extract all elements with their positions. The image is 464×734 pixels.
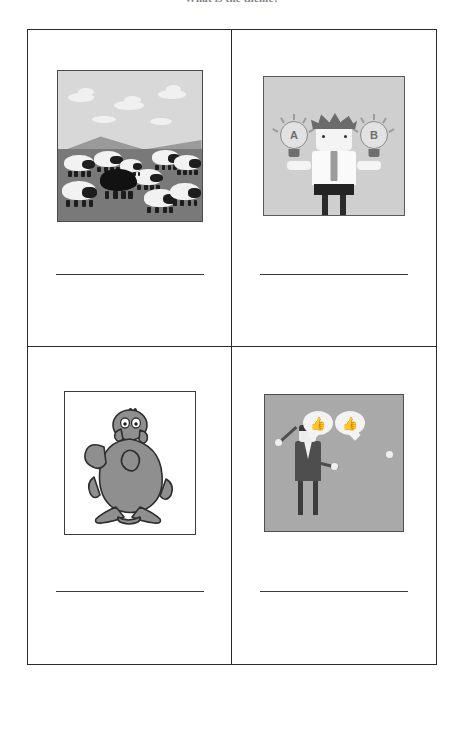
handshake-hands [331,463,338,470]
answer-slot[interactable] [232,579,436,664]
lightbulb-a-label: A [290,129,298,141]
table-cell-bottom-left [28,347,232,664]
necktie [331,151,338,181]
lightbulb-a-icon: A [280,121,308,149]
cloud-icon [124,96,141,104]
leg [298,481,303,515]
white-sheep [62,181,96,207]
answer-line[interactable] [56,274,204,275]
thumbs-up-icon: 👍 [342,417,358,430]
table-cell-top-right: A B [232,30,436,346]
answer-line[interactable] [260,274,408,275]
hand [386,451,393,458]
speech-bubble-right: 👍 [335,411,365,435]
page-title-container: What is the theme? [0,0,464,7]
answer-slot[interactable] [232,262,436,346]
page-title: What is the theme? [0,0,464,5]
black-sheep [100,169,136,199]
cloud-icon [166,85,181,93]
answer-line[interactable] [260,591,408,592]
left-arm [287,161,311,170]
answer-slot[interactable] [28,262,231,346]
worksheet-table: A B [27,29,437,665]
leg [322,195,328,216]
lightbulb-b-icon: B [360,121,388,149]
cloud-icon [150,118,172,125]
leg [313,481,318,515]
handshake-agreement-illustration: 👍 👍 [264,394,404,532]
cloud-icon [92,116,116,123]
hand [275,439,282,446]
cloud-icon [78,88,94,96]
right-arm [357,161,381,170]
answer-line[interactable] [56,591,204,592]
belt [314,184,354,195]
white-sheep [64,155,94,177]
table-cell-bottom-right: 👍 👍 [232,347,436,664]
image-slot: 👍 👍 [232,347,436,579]
image-slot: A B [232,30,436,262]
white-sheep [174,155,200,175]
sky-region [58,71,202,149]
speech-bubble-left: 👍 [303,411,333,435]
black-sheep-illustration [57,70,203,222]
white-sheep [170,183,200,206]
image-slot [28,30,231,262]
leg [340,195,346,216]
table-row: 👍 👍 [28,347,436,664]
ab-choice-illustration: A B [263,76,405,216]
nervous-chicken-illustration [64,391,196,535]
lightbulb-b-label: B [370,129,378,141]
eye [322,135,325,138]
eye [344,135,347,138]
table-cell-top-left [28,30,232,346]
answer-slot[interactable] [28,579,231,664]
chicken-svg [74,399,186,527]
thumbs-up-icon: 👍 [310,417,326,430]
table-row: A B [28,30,436,347]
image-slot [28,347,231,579]
